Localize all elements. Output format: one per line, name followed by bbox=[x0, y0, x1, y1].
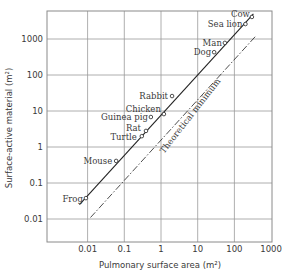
x-tick-label: 1000 bbox=[260, 244, 282, 254]
theoretical-minimum-line bbox=[91, 36, 256, 217]
data-point-label: Cow bbox=[231, 9, 251, 19]
data-point-marker bbox=[170, 94, 174, 98]
y-tick-label: 0.1 bbox=[29, 178, 43, 188]
data-point-label: Rabbit bbox=[139, 91, 168, 101]
x-tick-label: 1 bbox=[158, 244, 163, 254]
y-tick-label: 1 bbox=[38, 142, 43, 152]
y-tick-label: 100 bbox=[27, 70, 43, 80]
data-point-marker bbox=[244, 22, 248, 26]
x-tick-label: 0.01 bbox=[78, 244, 97, 254]
x-tick-label: 0.1 bbox=[118, 244, 132, 254]
y-tick-label: 10 bbox=[32, 106, 43, 116]
data-point-marker bbox=[114, 159, 118, 163]
data-point-marker bbox=[223, 41, 227, 45]
chart: 0.010.11101001000 0.010.11101001000 Frog… bbox=[0, 0, 293, 278]
data-point-label: Frog bbox=[62, 194, 83, 204]
y-tick-label: 0.01 bbox=[24, 214, 43, 224]
data-point-marker bbox=[144, 129, 148, 133]
grid-lines bbox=[47, 11, 272, 242]
data-point-label: Man bbox=[203, 38, 223, 48]
data-point-label: Mouse bbox=[83, 156, 112, 166]
data-point-marker bbox=[84, 196, 88, 200]
fit-line bbox=[79, 14, 253, 205]
x-axis-label: Pulmonary surface area (m²) bbox=[99, 260, 221, 270]
data-point-marker bbox=[149, 115, 153, 119]
x-tick-label: 100 bbox=[226, 244, 242, 254]
x-tick-labels: 0.010.11101001000 bbox=[78, 244, 282, 254]
data-point-label: Turtle bbox=[110, 132, 136, 142]
y-tick-label: 1000 bbox=[21, 34, 43, 44]
data-point-marker bbox=[250, 15, 254, 19]
data-point-label: Chicken bbox=[126, 104, 162, 114]
plot-frame bbox=[47, 11, 272, 242]
data-point-marker bbox=[212, 50, 216, 54]
x-tick-label: 10 bbox=[192, 244, 203, 254]
data-points: FrogMouseTurtleRatGuinea pigChickenRabbi… bbox=[62, 9, 253, 204]
data-point-marker bbox=[162, 112, 166, 116]
data-point-label: Sea lion bbox=[208, 19, 243, 29]
data-point-marker bbox=[140, 134, 144, 138]
data-point-label: Rat bbox=[126, 123, 142, 133]
y-tick-labels: 0.010.11101001000 bbox=[21, 34, 43, 224]
y-axis-label: Surface-active material (m²) bbox=[4, 68, 14, 189]
data-point-label: Dog bbox=[194, 47, 212, 57]
theoretical-minimum-label: Theoretical minimum bbox=[158, 76, 223, 155]
